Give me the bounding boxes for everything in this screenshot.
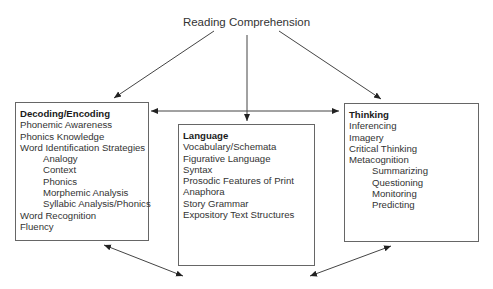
list-item: Imagery (349, 132, 474, 143)
box-heading: Language (183, 130, 310, 141)
arrow-language-thinking (310, 246, 391, 276)
list-subitem: Phonics (20, 176, 144, 187)
list-subitem: Predicting (349, 199, 474, 210)
decoding-encoding-box: Decoding/Encoding Phonemic AwarenessPhon… (15, 102, 149, 241)
list-subitem: Questioning (349, 177, 474, 188)
list-subitem: Summarizing (349, 165, 474, 176)
list-item: Anaphora (183, 186, 310, 197)
diagram-title: Reading Comprehension (0, 16, 493, 28)
list-subitem: Syllabic Analysis/Phonics (20, 198, 144, 209)
list-item: Syntax (183, 164, 310, 175)
list-item: Critical Thinking (349, 143, 474, 154)
list-subitem: Morphemic Analysis (20, 187, 144, 198)
list-item: Word Identification Strategies (20, 142, 144, 153)
list-item: Figurative Language (183, 153, 310, 164)
arrow-title-to-decoding (114, 31, 214, 98)
list-item: Fluency (20, 221, 144, 232)
list-item: Story Grammar (183, 198, 310, 209)
list-item: Word Recognition (20, 210, 144, 221)
arrow-title-to-thinking (279, 31, 381, 99)
box-heading: Thinking (349, 109, 474, 120)
list-item: Metacognition (349, 154, 474, 165)
list-item: Phonemic Awareness (20, 119, 144, 130)
list-item: Inferencing (349, 120, 474, 131)
arrow-decoding-language (104, 245, 183, 276)
list-subitem: Context (20, 164, 144, 175)
list-subitem: Monitoring (349, 188, 474, 199)
language-box: Language Vocabulary/SchemataFigurative L… (178, 124, 315, 266)
list-item: Prosodic Features of Print (183, 175, 310, 186)
list-subitem: Analogy (20, 153, 144, 164)
list-item: Vocabulary/Schemata (183, 141, 310, 152)
box-heading: Decoding/Encoding (20, 108, 144, 119)
list-item: Phonics Knowledge (20, 131, 144, 142)
thinking-box: Thinking InferencingImageryCritical Thin… (344, 103, 479, 242)
list-item: Expository Text Structures (183, 209, 310, 220)
